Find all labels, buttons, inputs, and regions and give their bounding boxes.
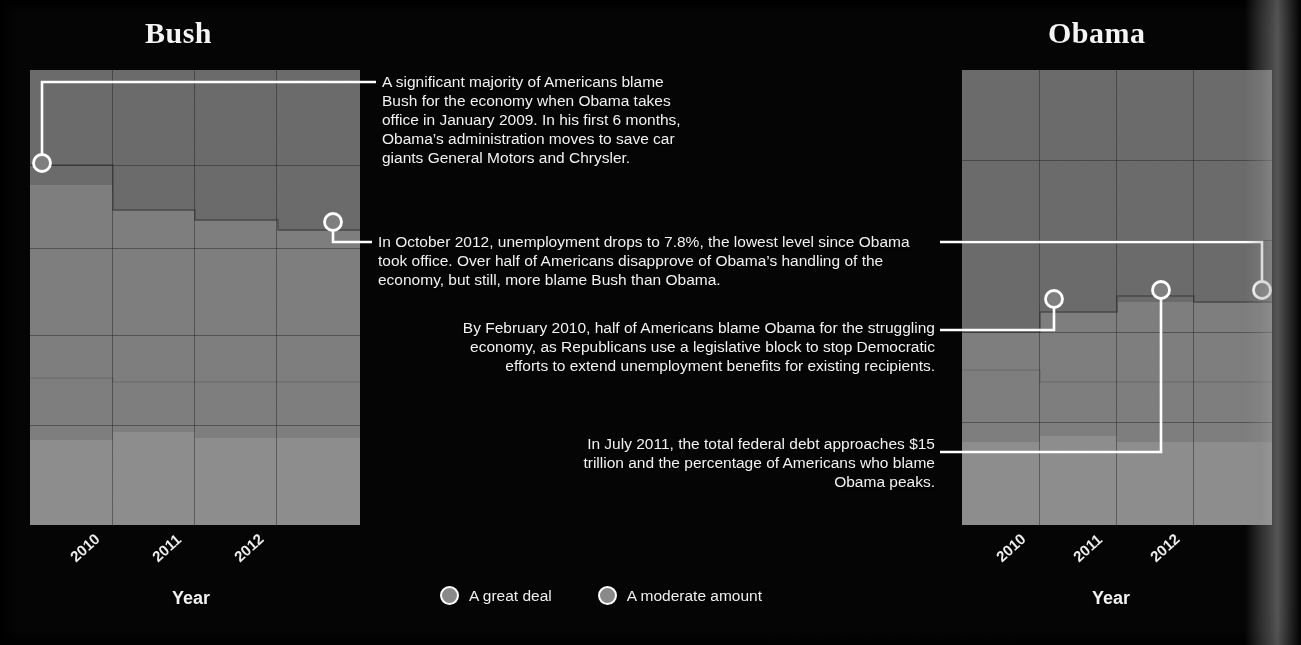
gridline-vertical (1116, 70, 1117, 525)
xtick-bush-2012: 2012 (231, 530, 267, 565)
gridline-vertical (276, 70, 277, 525)
gridline-horizontal (962, 422, 1272, 423)
gridline-horizontal (962, 240, 1272, 241)
top-edge-shadow (0, 0, 1301, 16)
legend-item-great-deal[interactable]: A great deal (440, 586, 552, 605)
annotation-obama-jul-2011: In July 2011, the total federal debt app… (560, 434, 935, 491)
bottom-edge-shadow (0, 629, 1301, 645)
gridline-horizontal (962, 160, 1272, 161)
legend-label-moderate-amount: A moderate amount (627, 587, 762, 605)
gridline-horizontal (30, 165, 360, 166)
panel-title-obama: Obama (1048, 16, 1146, 50)
legend-swatch-icon (598, 586, 617, 605)
annotation-bush-2009: A significant majority of Americans blam… (382, 72, 688, 167)
xtick-bush-2011: 2011 (149, 531, 185, 565)
area-series-bush (30, 70, 360, 525)
chart-bush (30, 70, 360, 525)
gridline-vertical (1039, 70, 1040, 525)
gridline-horizontal (30, 335, 360, 336)
legend-item-moderate-amount[interactable]: A moderate amount (598, 586, 762, 605)
gridline-horizontal (962, 332, 1272, 333)
xtick-bush-2010: 2010 (67, 530, 103, 565)
xtick-obama-2012: 2012 (1147, 530, 1183, 565)
gridline-horizontal (30, 425, 360, 426)
gridline-horizontal (30, 248, 360, 249)
infographic-canvas: Bush 2010 2011 2012 Year Obama (0, 0, 1301, 645)
legend: A great deal A moderate amount (440, 586, 762, 605)
chart-obama (962, 70, 1272, 525)
xtick-obama-2010: 2010 (993, 530, 1029, 565)
xaxis-label-bush: Year (172, 588, 210, 609)
panel-title-bush: Bush (145, 16, 212, 50)
annotation-bush-oct-2012: In October 2012, unemployment drops to 7… (378, 232, 936, 289)
legend-label-great-deal: A great deal (469, 587, 552, 605)
gridline-vertical (1193, 70, 1194, 525)
gridline-vertical (194, 70, 195, 525)
legend-swatch-icon (440, 586, 459, 605)
xaxis-label-obama: Year (1092, 588, 1130, 609)
xtick-obama-2011: 2011 (1070, 531, 1106, 565)
area-series-obama (962, 70, 1272, 525)
left-edge-shadow (0, 0, 18, 645)
gridline-vertical (112, 70, 113, 525)
annotation-obama-feb-2010: By February 2010, half of Americans blam… (440, 318, 935, 375)
